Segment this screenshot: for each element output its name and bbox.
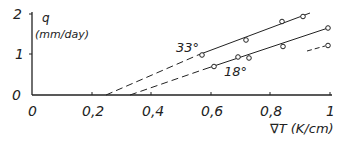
- series-extra-dashed-line: [307, 46, 325, 51]
- y-tick-label: 0: [12, 87, 21, 103]
- series-33-dashed-line: [106, 55, 198, 95]
- x-axis-label: ∇T (K/cm): [269, 121, 334, 136]
- x-tick-label: 0,8: [260, 103, 282, 119]
- chart: 2 1 0 0 0,2 0,4 0,6 0,8 1 q (mm/day) ∇T …: [0, 0, 343, 143]
- x-tick-label: 0,6: [201, 103, 223, 119]
- x-tick-label: 1: [326, 103, 335, 119]
- y-tick-label: 1: [15, 46, 24, 62]
- series-33-label: 33°: [176, 40, 199, 55]
- y-axis-label-unit: (mm/day): [35, 28, 89, 41]
- series-18-fit-line: [205, 28, 328, 69]
- x-tick-label: 0,4: [142, 103, 164, 119]
- series-33-fit-line: [198, 13, 310, 55]
- series-18-dashed-line: [130, 69, 205, 95]
- y-axis-label-symbol: q: [42, 11, 50, 25]
- x-tick-label: 0: [28, 103, 37, 119]
- y-tick-label: 2: [13, 6, 22, 22]
- x-tick-label: 0,2: [82, 103, 104, 119]
- series-18-label: 18°: [224, 64, 247, 79]
- series-extra-points: [326, 43, 331, 48]
